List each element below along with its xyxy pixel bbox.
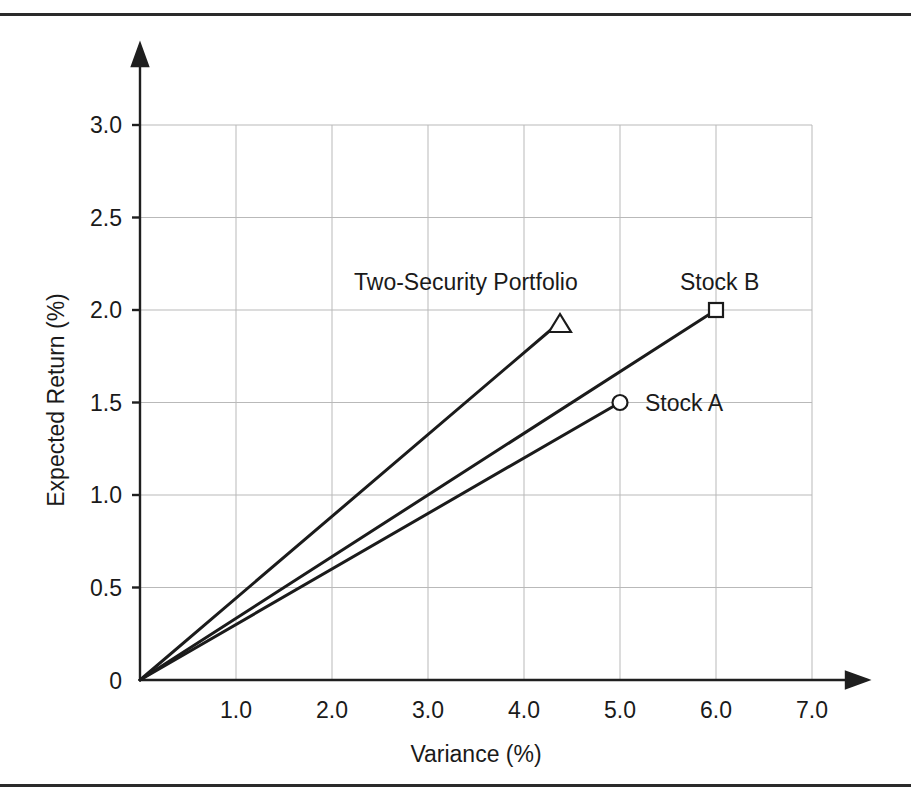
- ray-to-two-security-portfolio: [140, 328, 553, 680]
- chart-svg: 3.0 2.5 2.0 1.5 1.0 0.5 0 1.0 2.0 3.0 4.…: [0, 0, 911, 806]
- y-tick-label-1.5: 1.5: [90, 390, 122, 416]
- y-axis-arrowhead-icon: [132, 44, 148, 66]
- y-axis-title: Expected Return (%): [43, 293, 69, 506]
- x-tick-label-5.0: 5.0: [604, 697, 636, 723]
- y-tick-labels: 3.0 2.5 2.0 1.5 1.0 0.5 0: [90, 112, 122, 694]
- label-stock-a: Stock A: [645, 390, 724, 416]
- label-two-security-portfolio: Two-Security Portfolio: [354, 269, 578, 295]
- y-tick-label-3.0: 3.0: [90, 112, 122, 138]
- gridlines-horizontal: [140, 125, 812, 588]
- point-labels: Two-Security Portfolio Stock B Stock A: [354, 269, 759, 416]
- x-tick-label-2.0: 2.0: [316, 697, 348, 723]
- ray-to-stock-a: [140, 403, 620, 681]
- y-tick-label-2.5: 2.5: [90, 205, 122, 231]
- x-axis-title: Variance (%): [410, 741, 541, 767]
- x-tick-label-1.0: 1.0: [220, 697, 252, 723]
- y-tick-label-2.0: 2.0: [90, 297, 122, 323]
- circle-marker-stock-a[interactable]: [613, 395, 628, 410]
- square-marker-stock-b[interactable]: [709, 303, 723, 317]
- risk-return-chart: 3.0 2.5 2.0 1.5 1.0 0.5 0 1.0 2.0 3.0 4.…: [0, 0, 911, 806]
- x-axis-arrowhead-icon: [846, 672, 868, 688]
- y-tick-label-0: 0: [109, 668, 122, 694]
- label-stock-b: Stock B: [680, 269, 759, 295]
- x-tick-label-7.0: 7.0: [796, 697, 828, 723]
- y-tick-label-1.0: 1.0: [90, 482, 122, 508]
- x-tick-labels: 1.0 2.0 3.0 4.0 5.0 6.0 7.0: [220, 697, 828, 723]
- x-tick-label-3.0: 3.0: [412, 697, 444, 723]
- triangle-marker-two-security-portfolio[interactable]: [549, 314, 571, 332]
- x-tick-label-4.0: 4.0: [508, 697, 540, 723]
- y-tick-label-0.5: 0.5: [90, 575, 122, 601]
- x-tick-label-6.0: 6.0: [700, 697, 732, 723]
